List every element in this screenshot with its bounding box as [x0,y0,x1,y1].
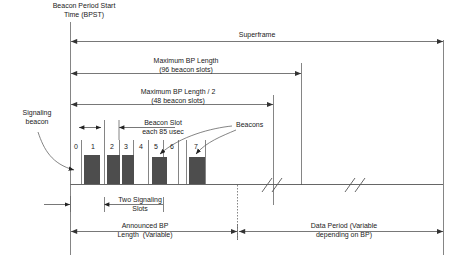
beacon-period-diagram: Beacon Period Start Time (BPST) Superfra… [0,0,473,267]
signaling-beacon-leader [38,132,74,170]
vertical-reference-lines [71,22,444,255]
max-bp-length-half-label: Maximum BP Length / 2 (48 beacon slots) [141,88,216,105]
signaling-beacon-label: Signaling beacon [23,109,52,126]
beacon-slot-label: Beacon Slot each 85 usec [142,119,184,136]
beacon-bar-slot-3 [122,155,134,184]
beacon-bar-slot-7 [189,157,205,184]
slot-number-3: 3 [124,143,128,151]
data-period-label: Data Period (Variable depending on BP) [311,222,377,239]
max-bp-length-label: Maximum BP Length (96 beacon slots) [154,57,219,74]
slot-number-6: 6 [170,143,174,151]
slot-number-2: 2 [110,143,114,151]
beacon-bar-slot-2 [107,155,120,184]
two-signaling-slots-label: Two Signaling Slots [118,196,162,213]
single-slot-width-arrow [79,120,105,140]
beacon-bar-slot-5 [152,157,167,184]
slot-number-5: 5 [154,143,158,151]
beacons-label: Beacons [236,121,263,130]
superframe-label: Superframe [239,31,276,40]
slot-number-0: 0 [74,143,78,151]
slot-number-4: 4 [139,143,143,151]
slot-number-1: 1 [91,143,95,151]
beacon-bar-slot-1 [84,155,100,184]
timeline-break-marks [262,178,365,192]
slot-number-7: 7 [194,143,198,151]
diagram-canvas [0,0,473,267]
bpst-label: Beacon Period Start Time (BPST) [53,2,116,19]
announced-bp-length-label: Announced BP Length (Variable) [117,222,172,239]
